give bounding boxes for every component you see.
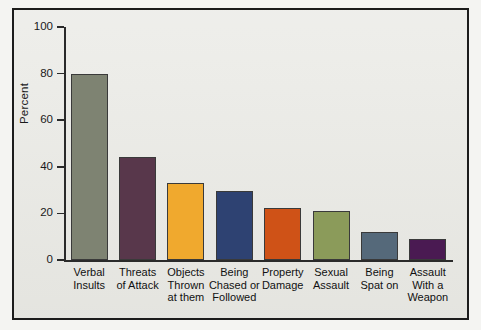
y-tick-mark xyxy=(57,26,64,28)
bar xyxy=(71,74,108,260)
bar xyxy=(216,191,253,260)
x-axis-label-line: Followed xyxy=(205,291,263,304)
x-axis-label-line: Assault xyxy=(399,266,457,279)
x-axis-label-line: With a xyxy=(399,279,457,292)
x-axis-label: AssaultWith aWeapon xyxy=(399,266,457,304)
y-axis-line xyxy=(64,27,66,261)
bar xyxy=(119,157,156,260)
plot-area: Percent 100806040200 VerbalInsultsThreat… xyxy=(0,0,481,330)
y-tick-label: 60 xyxy=(23,114,53,126)
y-tick-mark xyxy=(57,73,64,75)
bar xyxy=(264,208,301,260)
y-tick-label: 0 xyxy=(23,254,53,266)
bar xyxy=(361,232,398,260)
y-tick-label: 40 xyxy=(23,161,53,173)
bar xyxy=(313,211,350,260)
bar-chart-figure: Percent 100806040200 VerbalInsultsThreat… xyxy=(0,0,481,330)
y-tick-mark xyxy=(57,213,64,215)
bar xyxy=(409,239,446,260)
y-tick-mark xyxy=(57,119,64,121)
y-tick-label: 80 xyxy=(23,68,53,80)
y-tick-label: 100 xyxy=(23,21,53,33)
bar xyxy=(167,183,204,260)
y-tick-mark xyxy=(57,259,64,261)
x-axis-label-line: Weapon xyxy=(399,291,457,304)
x-axis-line xyxy=(64,260,453,262)
y-tick-label: 20 xyxy=(23,208,53,220)
y-tick-mark xyxy=(57,166,64,168)
